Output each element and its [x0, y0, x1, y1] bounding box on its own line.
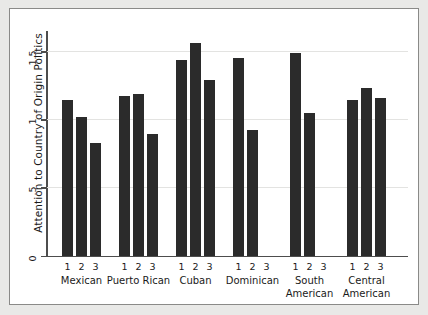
bar: [62, 100, 73, 255]
y-tick-mark: [41, 119, 46, 121]
x-tick-label: 3: [89, 261, 103, 272]
chart-screenshot: Attention to Country of Origin Politics …: [0, 0, 428, 315]
bar: [290, 53, 301, 256]
bar: [375, 98, 386, 256]
x-tick-label: 1: [175, 261, 189, 272]
bar: [304, 113, 315, 256]
y-tick-mark: [41, 51, 46, 53]
y-tick-mark: [41, 256, 46, 258]
bar: [76, 117, 87, 256]
bar: [190, 43, 201, 255]
y-tick-label: .5: [27, 187, 38, 196]
bar: [119, 96, 130, 255]
x-tick-label: 2: [303, 261, 317, 272]
x-tick-label: 1: [118, 261, 132, 272]
x-tick-label: 2: [189, 261, 203, 272]
bar: [361, 88, 372, 255]
x-tick-label: 2: [246, 261, 260, 272]
x-tick-label: 1: [232, 261, 246, 272]
bar: [133, 94, 144, 256]
chart-frame: Attention to Country of Origin Politics …: [9, 8, 419, 305]
x-tick-label: 2: [360, 261, 374, 272]
x-tick-label: 3: [374, 261, 388, 272]
y-tick-mark: [41, 187, 46, 189]
plot-area: 0.511.5: [46, 31, 408, 257]
x-tick-label: 3: [260, 261, 274, 272]
x-tick-label: 3: [203, 261, 217, 272]
x-tick-label: 1: [346, 261, 360, 272]
bar: [247, 130, 258, 255]
bar: [347, 100, 358, 255]
bar: [233, 58, 244, 255]
y-axis-title: Attention to Country of Origin Politics: [32, 13, 44, 253]
x-group-label: Central American: [331, 275, 402, 300]
x-tick-label: 3: [317, 261, 331, 272]
bar: [90, 143, 101, 256]
y-tick-label: 0: [27, 255, 38, 261]
x-tick-label: 3: [146, 261, 160, 272]
y-tick-label: 1: [27, 119, 38, 125]
x-tick-label: 1: [61, 261, 75, 272]
x-tick-label: 2: [75, 261, 89, 272]
x-axis-line: [46, 256, 408, 258]
x-tick-label: 1: [289, 261, 303, 272]
y-axis-line: [46, 31, 48, 257]
x-tick-label: 2: [132, 261, 146, 272]
bar: [147, 134, 158, 255]
bar: [204, 80, 215, 256]
bar: [176, 60, 187, 256]
y-tick-label: 1.5: [27, 51, 38, 66]
gridline: [47, 51, 408, 52]
